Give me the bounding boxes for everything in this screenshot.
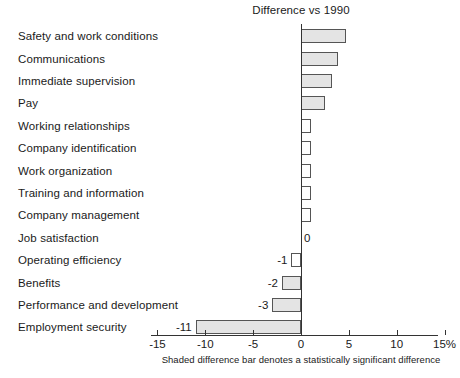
chart-container: Difference vs 1990 Safety and work condi… bbox=[0, 0, 460, 378]
bar-row: Safety and work conditions bbox=[0, 25, 460, 47]
category-label: Company management bbox=[18, 209, 139, 221]
bar-negative bbox=[272, 298, 301, 312]
axis-tick bbox=[349, 330, 350, 335]
axis-tick-label: 0 bbox=[298, 338, 304, 350]
bar-row: Performance and development-3 bbox=[0, 294, 460, 316]
bar-value-label: -3 bbox=[258, 299, 268, 311]
bar-row: Operating efficiency-1 bbox=[0, 249, 460, 271]
axis-tick bbox=[157, 330, 158, 335]
bar-row: Working relationships bbox=[0, 115, 460, 137]
category-label: Safety and work conditions bbox=[18, 30, 158, 42]
bar-positive bbox=[301, 96, 325, 110]
category-label: Communications bbox=[18, 53, 105, 65]
category-label: Company identification bbox=[18, 142, 137, 154]
bar-row: Pay bbox=[0, 92, 460, 114]
bar-positive bbox=[301, 74, 332, 88]
category-label: Work organization bbox=[18, 165, 112, 177]
axis-tick bbox=[445, 330, 446, 335]
zero-axis-line bbox=[301, 24, 302, 335]
bar-value-label: -11 bbox=[176, 321, 192, 333]
bar-positive bbox=[301, 52, 338, 66]
category-label: Operating efficiency bbox=[18, 254, 121, 266]
bar-negative bbox=[196, 320, 301, 334]
bar-value-label: -1 bbox=[277, 254, 287, 266]
chart-title: Difference vs 1990 bbox=[252, 4, 349, 16]
category-label: Training and information bbox=[18, 187, 144, 199]
bar-row: Work organization bbox=[0, 159, 460, 181]
axis-tick bbox=[205, 330, 206, 335]
bar-row: Benefits-2 bbox=[0, 271, 460, 293]
bar-positive bbox=[301, 186, 311, 200]
axis-tick-label: -5 bbox=[248, 338, 258, 350]
bar-positive bbox=[301, 208, 311, 222]
axis-tick-label: -15 bbox=[149, 338, 166, 350]
bar-positive bbox=[301, 119, 311, 133]
bar-row: Immediate supervision bbox=[0, 70, 460, 92]
bar-positive bbox=[301, 29, 346, 43]
axis-tick bbox=[397, 330, 398, 335]
category-label: Job satisfaction bbox=[18, 232, 99, 244]
axis-tick-label: -10 bbox=[197, 338, 214, 350]
category-label: Performance and development bbox=[18, 299, 178, 311]
category-label: Working relationships bbox=[18, 120, 130, 132]
bar-row: Job satisfaction0 bbox=[0, 227, 460, 249]
axis-tick-label: 15% bbox=[433, 338, 456, 350]
category-label: Immediate supervision bbox=[18, 75, 135, 87]
bar-positive bbox=[301, 164, 311, 178]
bar-row: Communications bbox=[0, 47, 460, 69]
bar-value-label: 0 bbox=[304, 232, 310, 244]
axis-tick-label: 5 bbox=[346, 338, 352, 350]
axis-tick-label: 10 bbox=[390, 338, 403, 350]
axis-tick bbox=[253, 330, 254, 335]
bar-row: Company identification bbox=[0, 137, 460, 159]
category-label: Employment security bbox=[18, 321, 127, 333]
bar-positive bbox=[301, 141, 311, 155]
bar-value-label: -2 bbox=[268, 277, 278, 289]
bar-negative bbox=[282, 276, 301, 290]
x-axis-line bbox=[151, 335, 438, 336]
bar-row: Training and information bbox=[0, 182, 460, 204]
bar-negative bbox=[291, 253, 301, 267]
category-label: Pay bbox=[18, 97, 38, 109]
axis-tick bbox=[301, 330, 302, 335]
chart-footnote: Shaded difference bar denotes a statisti… bbox=[162, 354, 441, 365]
category-label: Benefits bbox=[18, 277, 60, 289]
bar-row: Company management bbox=[0, 204, 460, 226]
